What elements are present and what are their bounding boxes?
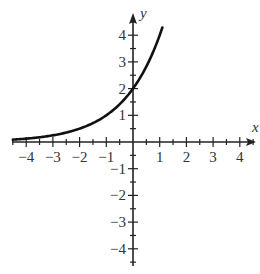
y-tick-label: −4 [110,241,126,257]
x-axis-label: x [251,119,259,135]
axes [12,13,256,266]
x-tick-label: 2 [183,149,191,165]
exponential-curve [13,28,163,140]
x-tick-label: 4 [236,149,244,165]
x-tick-label: −3 [45,149,61,165]
exponential-graph: −4−3−2−11234−4−3−2−11234 x y [0,0,260,274]
y-tick-label: 1 [119,107,127,123]
x-tick-label: 3 [209,149,217,165]
y-tick-label: −1 [110,161,126,177]
y-axis-label: y [138,5,147,21]
y-tick-label: −3 [110,214,126,230]
x-tick-label: 1 [156,149,164,165]
y-tick-label: 2 [119,81,127,97]
x-tick-label: −2 [72,149,88,165]
y-tick-label: 3 [119,54,127,70]
y-tick-label: 4 [119,27,127,43]
y-tick-label: −2 [110,187,126,203]
x-tick-label: −4 [18,149,34,165]
